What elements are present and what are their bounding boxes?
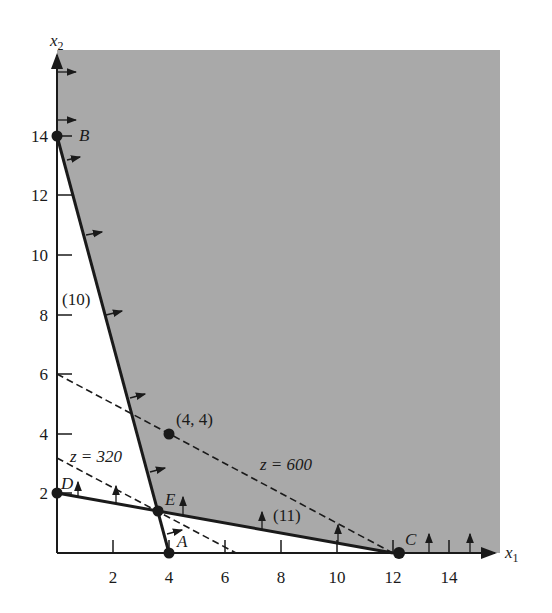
y-tick-label: 6 bbox=[40, 365, 49, 384]
label-B: B bbox=[79, 126, 90, 145]
label-iso-600: z = 600 bbox=[259, 455, 313, 474]
y-tick-label: 12 bbox=[31, 186, 48, 205]
label-iso-320: z = 320 bbox=[69, 447, 123, 466]
label-constraint-10: (10) bbox=[62, 290, 90, 309]
x-tick-label: 8 bbox=[277, 568, 286, 587]
x-tick-label: 6 bbox=[221, 568, 230, 587]
point-C bbox=[393, 547, 405, 559]
label-constraint-11: (11) bbox=[273, 506, 301, 525]
label-4-4: (4, 4) bbox=[176, 410, 213, 429]
lp-graph: 2 4 6 8 10 12 14 2 4 6 8 10 12 14 x2 x1 bbox=[0, 0, 552, 613]
x-axis-label: x1 bbox=[504, 543, 519, 565]
x-tick-label: 12 bbox=[385, 568, 402, 587]
y-tick-label: 4 bbox=[40, 425, 49, 444]
point-A bbox=[164, 548, 175, 559]
point-E bbox=[153, 506, 164, 517]
y-tick-label: 2 bbox=[40, 484, 49, 503]
point-B bbox=[52, 131, 63, 142]
label-D: D bbox=[60, 474, 74, 493]
y-tick-label: 10 bbox=[31, 246, 48, 265]
y-axis-label: x2 bbox=[49, 31, 64, 53]
x-tick-label: 2 bbox=[109, 568, 118, 587]
x-tick-label: 4 bbox=[165, 568, 174, 587]
label-E: E bbox=[164, 490, 176, 509]
point-4-4 bbox=[164, 429, 175, 440]
x-tick-label: 10 bbox=[329, 568, 346, 587]
label-C: C bbox=[405, 530, 417, 549]
y-ticks bbox=[57, 136, 72, 493]
y-tick-label: 14 bbox=[31, 127, 49, 146]
label-A: A bbox=[176, 532, 188, 551]
feasible-region bbox=[57, 50, 500, 553]
y-tick-label: 8 bbox=[40, 306, 49, 325]
x-tick-label: 14 bbox=[441, 568, 459, 587]
